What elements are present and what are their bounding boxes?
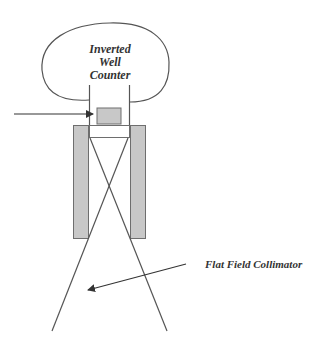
collimator-label: Flat Field Collimator — [204, 258, 303, 270]
fov-line-right — [90, 138, 167, 331]
collimator-diagram: Inverted Well Counter Flat Field Collima… — [0, 0, 312, 342]
source-sample — [97, 108, 121, 124]
counter-label-line1: Inverted — [88, 42, 131, 56]
fov-line-left — [52, 138, 128, 331]
counter-label-line3: Counter — [90, 68, 131, 82]
collimator-arrow — [88, 264, 186, 290]
counter-label-line2: Well — [99, 55, 121, 69]
shield-left — [74, 126, 89, 239]
shield-right — [131, 126, 146, 239]
collimator-window — [90, 126, 130, 138]
